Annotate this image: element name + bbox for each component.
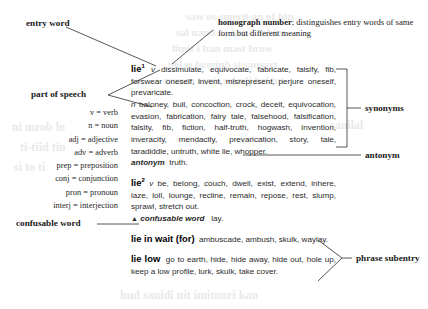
synonym-list-noun: baloney, bull, concoction, crock, deceit… <box>131 100 336 156</box>
callout-entry-word: entry word <box>26 18 70 30</box>
abbreviation-key: v = verb n = noun adj = adjective adv = … <box>0 106 118 212</box>
synonym-list-verb-1: dissimulate, equivocate, fabricate, fals… <box>131 65 336 97</box>
callout-confusable-word: confusable word <box>16 218 81 230</box>
pos-noun: n <box>131 100 136 109</box>
phrase-synonyms-lie-in-wait: ambuscade, ambush, skulk, waylay. <box>199 235 328 244</box>
entry-sense-3: lie2 v be, belong, couch, dwell, exist, … <box>131 176 336 213</box>
homograph-number-2: 2 <box>141 177 144 183</box>
abbrev-item: adv = adverb <box>0 146 118 159</box>
abbrev-item: conj = conjunction <box>0 172 118 185</box>
ghost-text: limit i ban mast brow <box>172 42 273 54</box>
callout-homograph-number-term: homograph number <box>218 17 292 27</box>
ghost-text: hud sanidi nit imitnori kan <box>120 288 258 303</box>
dictionary-entry: lie1 v dissimulate, equivocate, fabricat… <box>131 62 336 278</box>
abbrev-item: prep = preposition <box>0 159 118 172</box>
entry-sense-2: n baloney, bull, concoction, crock, dece… <box>131 99 336 157</box>
synonym-list-verb-2: be, belong, couch, dwell, exist, extend,… <box>131 179 336 211</box>
pos-verb-2: v <box>149 179 153 188</box>
abbrev-item: interj = interjection <box>0 199 118 212</box>
headword-lie-1: lie1 <box>131 63 145 74</box>
callout-phrase-subentry: phrase subentry <box>356 253 420 265</box>
abbrev-item: adj = adjective <box>0 133 118 146</box>
entry-phrase-lie-in-wait: lie in wait (for) ambuscade, ambush, sku… <box>131 232 336 246</box>
antonym-value: truth. <box>169 158 187 167</box>
phrase-headword-lie-in-wait: lie in wait (for) <box>131 233 195 244</box>
callout-homograph-number: homograph number; distinguishes entry wo… <box>218 17 422 38</box>
phrase-synonyms-lie-low: go to earth, hide, hide away, hide out, … <box>131 255 336 276</box>
pos-verb-1: v <box>151 65 155 74</box>
abbrev-item: pron = pronoun <box>0 186 118 199</box>
abbrev-item: n = noun <box>0 119 118 132</box>
confusable-word-label: confusable word <box>140 214 204 223</box>
triangle-icon: ▲ <box>131 215 138 222</box>
antonym-label: antonym <box>131 158 165 167</box>
callout-antonym: antonym <box>365 150 400 162</box>
confusable-word-value: lay. <box>211 214 223 223</box>
callout-synonyms: synonyms <box>365 103 404 115</box>
entry-phrase-lie-low: lie low go to earth, hide, hide away, hi… <box>131 252 336 277</box>
abbrev-item: v = verb <box>0 106 118 119</box>
callout-part-of-speech: part of speech <box>31 89 86 101</box>
diagram-canvas: saw os smerit an of hits sal nand as han… <box>0 0 428 309</box>
headword-lie-2: lie2 <box>131 177 145 188</box>
entry-antonym-line: antonym truth. <box>131 157 336 169</box>
phrase-headword-lie-low: lie low <box>131 253 160 264</box>
entry-sense-1: lie1 v dissimulate, equivocate, fabricat… <box>131 62 336 99</box>
entry-confusable-line: ▲ confusable word lay. <box>131 213 336 225</box>
homograph-number-1: 1 <box>141 63 144 69</box>
